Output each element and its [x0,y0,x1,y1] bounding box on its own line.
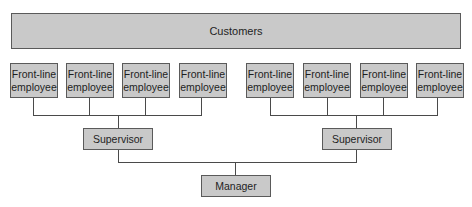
connector-line [270,115,438,116]
employee-label-line1: Front-line [362,68,406,81]
employee-label-line2: employee [180,81,226,94]
connector-line [89,98,90,116]
supervisor-label: Supervisor [93,133,143,145]
front-line-employee-box: Front-line employee [10,63,58,98]
front-line-employee-box: Front-line employee [303,63,351,98]
manager-box: Manager [201,175,271,197]
front-line-employee-box: Front-line employee [66,63,114,98]
employee-label-line2: employee [123,81,169,94]
customers-box: Customers [11,13,461,49]
connector-line [437,98,438,116]
employee-label-line2: employee [67,81,113,94]
supervisor-label: Supervisor [332,133,382,145]
front-line-employee-box: Front-line employee [246,63,294,98]
supervisor-box: Supervisor [83,128,153,150]
connector-line [33,98,34,116]
employee-label-line1: Front-line [124,68,168,81]
employee-label-line2: employee [304,81,350,94]
employee-label-line1: Front-line [248,68,292,81]
manager-label: Manager [215,180,256,192]
employee-label-line1: Front-line [418,68,462,81]
employee-label-line1: Front-line [68,68,112,81]
connector-line [145,98,146,116]
customers-label: Customers [209,25,262,37]
front-line-employee-box: Front-line employee [416,63,464,98]
connector-line [327,98,328,116]
front-line-employee-box: Front-line employee [360,63,408,98]
connector-line [383,98,384,116]
connector-line [118,162,357,163]
connector-line [118,115,119,128]
employee-label-line1: Front-line [181,68,225,81]
employee-label-line2: employee [247,81,293,94]
employee-label-line2: employee [417,81,463,94]
connector-line [270,98,271,116]
connector-line [235,162,236,175]
connector-line [201,98,202,116]
connector-line [356,115,357,128]
front-line-employee-box: Front-line employee [179,63,227,98]
employee-label-line2: employee [11,81,57,94]
supervisor-box: Supervisor [322,128,392,150]
employee-label-line1: Front-line [305,68,349,81]
employee-label-line2: employee [361,81,407,94]
employee-label-line1: Front-line [12,68,56,81]
front-line-employee-box: Front-line employee [122,63,170,98]
